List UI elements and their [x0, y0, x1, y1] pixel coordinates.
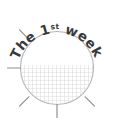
badge-graphic: The 1st week — [0, 0, 114, 121]
title-ordinal-suffix: st — [50, 22, 59, 31]
tick-225-icon — [20, 97, 29, 106]
title-part-one: The — [7, 24, 43, 61]
tick-315-icon — [85, 97, 94, 106]
badge-title-curved: The 1st week — [7, 20, 107, 61]
title-part-two: week — [59, 20, 107, 60]
week-badge-logo: The 1st week — [0, 0, 114, 121]
